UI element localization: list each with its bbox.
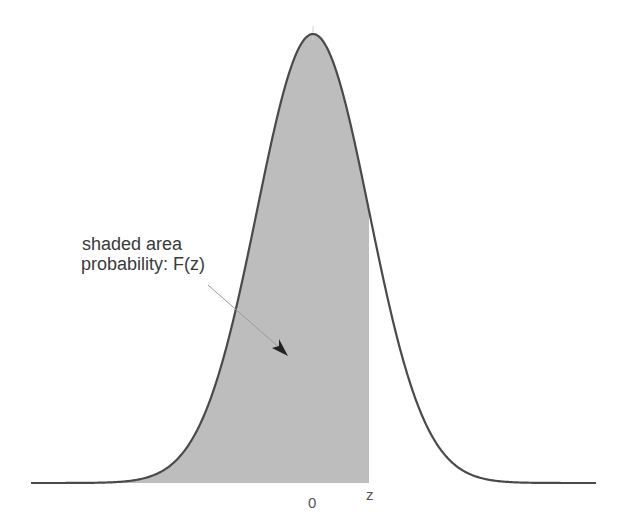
x-tick-label-z: z (366, 486, 374, 503)
annotation-label-line2: probability: F(z) (81, 254, 205, 274)
annotation-label-line1: shaded area (82, 234, 182, 254)
x-tick-label-zero: 0 (308, 494, 316, 511)
